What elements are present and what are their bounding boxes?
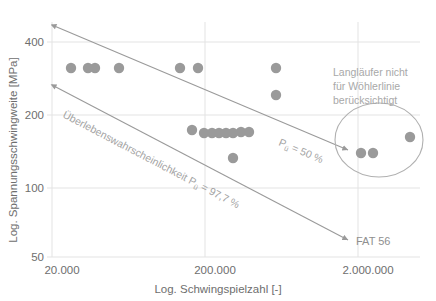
ytick-label-100: 100 bbox=[25, 182, 44, 194]
x-axis-title: Log. Schwingspielzahl [-] bbox=[154, 283, 281, 295]
langlaeufer-note: Langläufer nicht für Wöhlerlinie berücks… bbox=[333, 66, 408, 106]
xtick-label-200000: 200.000 bbox=[194, 264, 236, 276]
datapoint bbox=[271, 63, 281, 73]
note-line-3: berücksichtigt bbox=[333, 94, 397, 106]
y-axis-title: Log. Spannungsschwingweite [MPa] bbox=[7, 57, 19, 242]
datapoint bbox=[175, 63, 185, 73]
p977-rest: = 97,7 % bbox=[197, 179, 242, 210]
woehler-line-p977 bbox=[52, 85, 348, 240]
ytick-label-200: 200 bbox=[25, 109, 44, 121]
datapoint bbox=[228, 153, 238, 163]
fat-label: FAT 56 bbox=[356, 235, 390, 247]
note-line-1: Langläufer nicht bbox=[333, 66, 408, 78]
ytick-label-400: 400 bbox=[25, 36, 44, 48]
datapoint bbox=[356, 148, 366, 158]
ytick-label-50: 50 bbox=[31, 251, 44, 263]
label-p977: Überlebenswahrscheinlichkeit Pü = 97,7 % bbox=[60, 108, 242, 212]
datapoint bbox=[405, 132, 415, 142]
woehler-diagram: 400 200 100 50 20.000 200.000 2.000.000 … bbox=[0, 0, 436, 301]
datapoint bbox=[187, 125, 197, 135]
note-line-2: für Wöhlerlinie bbox=[333, 80, 400, 92]
datapoint bbox=[90, 63, 100, 73]
datapoint bbox=[368, 148, 378, 158]
label-p50: Pü = 50 % bbox=[276, 136, 325, 168]
datapoint bbox=[271, 90, 281, 100]
xtick-label-2000000: 2.000.000 bbox=[342, 264, 393, 276]
svg-text:Pü = 50 %: Pü = 50 % bbox=[276, 136, 325, 168]
p50-rest: = 50 % bbox=[288, 140, 326, 165]
datapoint bbox=[244, 127, 254, 137]
svg-text:Überlebenswahrscheinlichkeit P: Überlebenswahrscheinlichkeit Pü = 97,7 % bbox=[60, 108, 242, 212]
datapoint-group-langlaeufer bbox=[356, 132, 415, 158]
datapoint bbox=[66, 63, 76, 73]
chart-canvas: 400 200 100 50 20.000 200.000 2.000.000 … bbox=[0, 0, 436, 301]
xtick-label-20000: 20.000 bbox=[44, 264, 79, 276]
y-tick-marks bbox=[47, 42, 52, 257]
p977-main: Überlebenswahrscheinlichkeit P bbox=[61, 108, 198, 188]
datapoint bbox=[114, 63, 124, 73]
datapoint bbox=[193, 63, 203, 73]
